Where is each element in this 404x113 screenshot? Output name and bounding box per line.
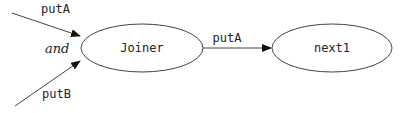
node-joiner[interactable]: Joiner	[81, 24, 203, 72]
edge-label-putA-out: putA	[213, 31, 243, 45]
edge-joiner-to-next1: putA	[203, 31, 271, 48]
join-label: and	[45, 41, 69, 56]
node-next1[interactable]: next1	[272, 24, 392, 72]
node-joiner-label: Joiner	[120, 41, 163, 55]
node-next1-label: next1	[314, 41, 350, 55]
edge-putB-in: putB	[15, 61, 80, 106]
edge-label-putA-in: putA	[41, 2, 71, 16]
edge-putA-in: putA	[12, 2, 80, 36]
edge-label-putB-in: putB	[42, 87, 71, 101]
diagram-canvas: putA putB and Joiner putA next1	[0, 0, 404, 113]
